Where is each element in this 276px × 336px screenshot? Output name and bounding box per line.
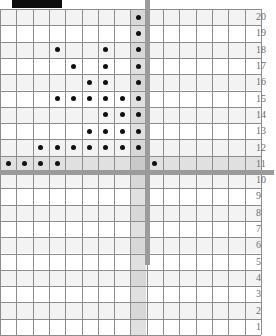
data-point (120, 145, 125, 150)
vertical-axis-line (145, 0, 150, 265)
redaction-bar (12, 0, 62, 8)
data-point (71, 96, 76, 101)
scatter-plot-grid (0, 9, 261, 335)
data-point (38, 145, 43, 150)
y-tick-label: 19 (256, 28, 276, 38)
y-tick-label: 4 (256, 273, 276, 283)
data-point (71, 145, 76, 150)
y-tick-label: 20 (256, 12, 276, 22)
y-tick-label: 15 (256, 94, 276, 104)
y-tick-label: 9 (256, 191, 276, 201)
y-tick-label: 11 (256, 159, 276, 169)
data-point (87, 80, 92, 85)
data-point (55, 96, 60, 101)
y-tick-label: 5 (256, 257, 276, 267)
data-point (136, 31, 141, 36)
data-point (103, 129, 108, 134)
data-point (103, 145, 108, 150)
y-tick-label: 17 (256, 61, 276, 71)
data-point (103, 64, 108, 69)
y-tick-label: 12 (256, 143, 276, 153)
data-point (136, 64, 141, 69)
data-point (55, 145, 60, 150)
y-axis-tick-labels: 2019181716151413121110987654321 (256, 9, 274, 335)
horizontal-axis-line (0, 170, 274, 175)
y-tick-label: 18 (256, 45, 276, 55)
data-point (87, 96, 92, 101)
data-point (87, 145, 92, 150)
data-point (136, 129, 141, 134)
data-point (55, 161, 60, 166)
data-point (103, 96, 108, 101)
data-point (120, 129, 125, 134)
data-point (120, 112, 125, 117)
data-point (136, 80, 141, 85)
data-point (71, 64, 76, 69)
data-point (136, 15, 141, 20)
data-point (120, 96, 125, 101)
y-tick-label: 8 (256, 208, 276, 218)
data-point (103, 112, 108, 117)
y-tick-label: 2 (256, 306, 276, 316)
data-point (103, 80, 108, 85)
y-tick-label: 1 (256, 322, 276, 332)
data-point (87, 129, 92, 134)
y-tick-label: 13 (256, 126, 276, 136)
y-tick-label: 6 (256, 240, 276, 250)
y-tick-label: 16 (256, 77, 276, 87)
y-tick-label: 14 (256, 110, 276, 120)
y-tick-label: 3 (256, 289, 276, 299)
data-point (103, 47, 108, 52)
y-tick-label: 7 (256, 224, 276, 234)
data-point (55, 47, 60, 52)
y-tick-label: 10 (256, 175, 276, 185)
